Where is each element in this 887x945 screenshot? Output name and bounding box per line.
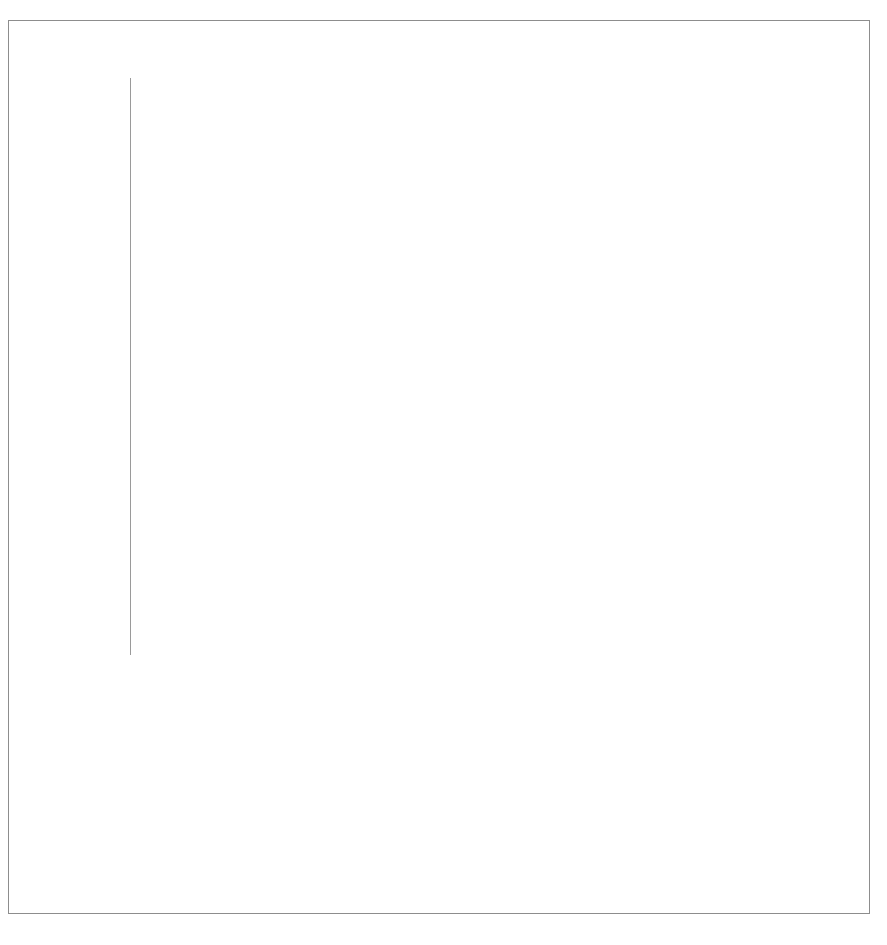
y-axis-tick-labels <box>31 21 121 913</box>
chart-frame <box>8 20 870 914</box>
gridlines <box>131 78 843 654</box>
plot-area <box>131 78 843 654</box>
category-axis <box>131 655 843 751</box>
